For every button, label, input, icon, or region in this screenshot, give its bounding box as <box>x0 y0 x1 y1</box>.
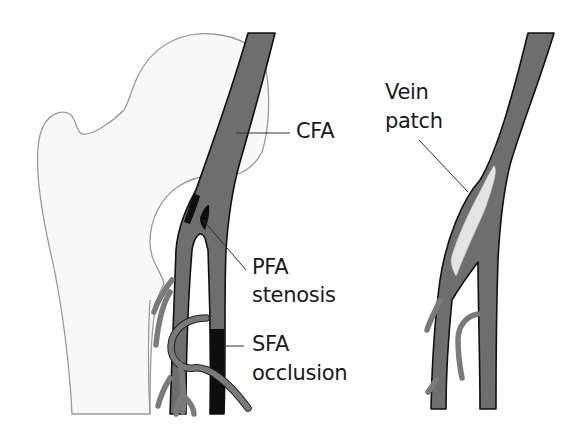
label-vein: Vein <box>385 79 429 105</box>
collateral-branches <box>154 280 248 414</box>
label-occlusion: occlusion <box>252 360 347 386</box>
repaired-vessel <box>431 33 554 409</box>
label-cfa: CFA <box>296 118 334 144</box>
right-panel <box>419 33 554 409</box>
vein-patch-leader <box>419 140 468 192</box>
label-patch: patch <box>385 108 443 134</box>
label-stenosis: stenosis <box>252 282 336 308</box>
label-sfa: SFA <box>252 331 289 357</box>
label-pfa: PFA <box>252 254 288 280</box>
